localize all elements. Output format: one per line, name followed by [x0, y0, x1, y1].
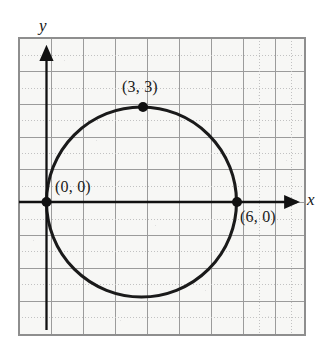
point-top [138, 102, 148, 112]
label-top: (3, 3) [122, 78, 158, 96]
label-origin: (0, 0) [55, 178, 91, 196]
y-axis-label: y [39, 16, 47, 36]
label-right: (6, 0) [240, 208, 276, 226]
plot-graphics [0, 0, 324, 354]
point-right [232, 197, 242, 207]
math-figure: (0, 0) (3, 3) (6, 0) y x [0, 0, 324, 354]
point-origin [42, 197, 52, 207]
x-axis-label: x [307, 190, 315, 210]
